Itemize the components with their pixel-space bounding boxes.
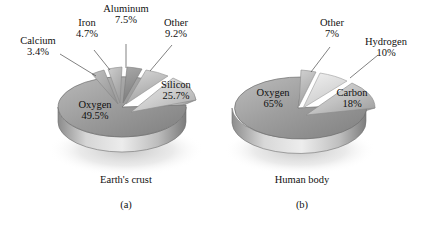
caption-title-b: Human body [244,174,360,185]
label-iron-pct-a: 4.7% [62,29,112,40]
caption-title-a: Earth's crust [68,174,184,185]
pie-chart-human-body [224,47,378,175]
leader-line-hydrogen-b [350,55,378,78]
label-calcium-pct-a: 3.4% [6,47,70,58]
leader-line-other-a [150,45,172,71]
label-oxygen-pct-a: 49.5% [62,111,128,122]
leader-line-iron-a [94,50,110,70]
figure-two-pie-charts: Calcium 3.4% Iron 4.7% Aluminum 7.5% Oth… [0,0,441,225]
label-carbon-b: Carbon 18% [322,88,382,109]
caption-panel-label-b: (b) [274,199,330,210]
label-silicon-pct-a: 25.7% [148,91,204,102]
label-silicon-a: Silicon 25.7% [148,80,204,101]
leader-line-other-b [311,47,330,72]
label-other-a: Other 9.2% [150,18,202,39]
label-oxygen-b: Oxygen 65% [240,88,306,109]
label-oxygen-a: Oxygen 49.5% [62,100,128,121]
label-carbon-pct-b: 18% [322,99,382,110]
caption-panel-label-a: (a) [98,199,154,210]
label-oxygen-pct-b: 65% [240,99,306,110]
label-hydrogen-b: Hydrogen 10% [348,37,424,58]
label-other-pct-a: 9.2% [150,29,202,40]
label-calcium-a: Calcium 3.4% [6,36,70,57]
label-hydrogen-pct-b: 10% [348,48,424,59]
